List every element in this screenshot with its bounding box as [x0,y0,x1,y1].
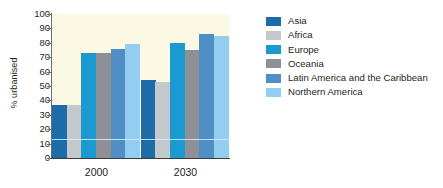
y-tick-label: 10 [4,139,50,149]
y-axis-ticks: 1009080706050403020100 [0,0,50,188]
scanline-artifact [52,139,229,140]
legend-item[interactable]: Latin America and the Caribbean [266,71,441,85]
bar [52,105,67,158]
bar [170,43,185,158]
x-axis-line [51,158,230,159]
bar [81,53,96,158]
y-tick-label: 70 [4,52,50,62]
legend-item[interactable]: Northern America [266,85,441,99]
bar [155,82,170,158]
bar [67,105,82,158]
bar [214,36,229,158]
plot-area [52,14,229,158]
x-axis-label-0: 2000 [52,166,141,178]
bar [185,50,200,158]
legend-label: Latin America and the Caribbean [288,73,428,83]
legend-label: Northern America [288,87,363,97]
bar-group [141,14,229,158]
bar [111,49,126,158]
legend-swatch-icon [266,59,281,68]
legend-item[interactable]: Oceania [266,57,441,71]
x-axis-label-1: 2030 [141,166,230,178]
urbanisation-bar-chart: % urbanised 1009080706050403020100 2000 … [0,0,443,188]
legend-swatch-icon [266,88,281,97]
legend-swatch-icon [266,45,281,54]
y-tick-label: 30 [4,110,50,120]
legend: AsiaAfricaEuropeOceaniaLatin America and… [266,14,441,100]
bar-group [52,14,140,158]
legend-swatch-icon [266,74,281,83]
y-tick-label: 60 [4,67,50,77]
y-tick-label: 80 [4,38,50,48]
y-tick-label: 100 [4,9,50,19]
legend-label: Asia [288,16,307,26]
y-axis-line [51,13,52,159]
y-tick-label: 0 [4,153,50,163]
legend-label: Europe [288,45,319,55]
bar [125,44,140,158]
legend-swatch-icon [266,31,281,40]
y-tick-label: 90 [4,23,50,33]
legend-label: Africa [288,30,313,40]
y-tick-label: 50 [4,81,50,91]
bar [96,53,111,158]
legend-item[interactable]: Africa [266,28,441,42]
legend-swatch-icon [266,17,281,26]
legend-item[interactable]: Asia [266,14,441,28]
y-tick-label: 20 [4,124,50,134]
bar [141,80,156,158]
legend-label: Oceania [288,59,324,69]
legend-item[interactable]: Europe [266,43,441,57]
y-tick-label: 40 [4,95,50,105]
